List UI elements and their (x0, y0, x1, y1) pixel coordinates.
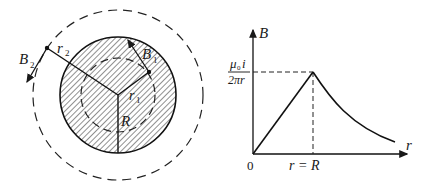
b2-subscript: 2 (30, 60, 35, 70)
x-axis-label: r (406, 137, 412, 153)
diagram-canvas: B 2 r 2 B 1 r 1 R B r 0 r = R μ 0 i 2πr (0, 0, 439, 190)
r1-subscript: 1 (136, 95, 141, 105)
peak-y-mu: μ (229, 56, 237, 71)
outside-decay-curve (313, 72, 395, 142)
r2-subscript: 2 (65, 48, 70, 58)
b1-subscript: 1 (153, 55, 158, 65)
peak-x-label: r = R (289, 158, 320, 173)
y-axis-label: B (259, 25, 268, 41)
peak-y-fraction: μ 0 i 2πr (228, 56, 250, 87)
R-label: R (120, 113, 130, 129)
r2-label: r (57, 40, 63, 56)
b2-label: B (19, 51, 28, 67)
b-vs-r-graph: B r 0 r = R μ 0 i 2πr (228, 25, 412, 173)
wire-cross-section: B 2 r 2 B 1 r 1 R (19, 10, 203, 180)
origin-label: 0 (247, 158, 254, 173)
b1-label: B (142, 46, 151, 62)
inside-linear-segment (253, 72, 313, 154)
peak-y-denominator: 2πr (228, 73, 245, 87)
r1-label: r (129, 88, 135, 103)
peak-y-i: i (242, 56, 246, 71)
peak-y-mu-subscript: 0 (237, 64, 241, 72)
